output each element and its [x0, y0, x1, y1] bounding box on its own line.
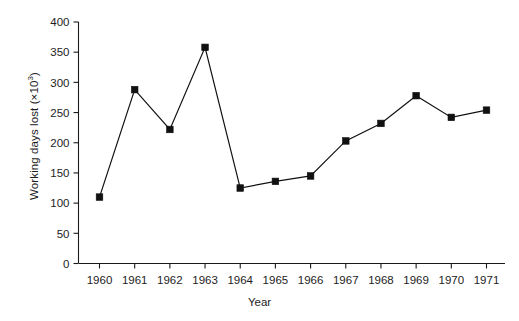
data-point-marker — [96, 194, 103, 201]
data-series-markers — [96, 44, 490, 200]
data-point-marker — [413, 92, 420, 99]
x-axis-title: Year — [0, 296, 519, 308]
x-tick-label: 1964 — [227, 274, 253, 286]
y-tick-label: 300 — [50, 77, 69, 89]
y-tick-label: 350 — [50, 46, 69, 58]
data-point-marker — [272, 178, 279, 185]
x-tick-label: 1970 — [439, 274, 465, 286]
data-point-marker — [342, 138, 349, 145]
y-tick-label: 200 — [50, 137, 69, 149]
x-axis-ticks: 1960196119621963196419651966196719681969… — [87, 264, 500, 286]
y-tick-label: 250 — [50, 107, 69, 119]
x-tick-label: 1960 — [87, 274, 113, 286]
data-point-marker — [448, 114, 455, 121]
x-tick-label: 1961 — [122, 274, 148, 286]
data-series-line — [100, 47, 487, 197]
x-tick-label: 1967 — [333, 274, 359, 286]
x-tick-label: 1963 — [192, 274, 218, 286]
chart-plot-area: 050100150200250300350400 196019611962196… — [0, 0, 519, 321]
x-tick-label: 1962 — [157, 274, 183, 286]
data-point-marker — [307, 173, 314, 180]
data-point-marker — [237, 185, 244, 192]
y-tick-label: 0 — [63, 258, 69, 270]
y-tick-label: 50 — [57, 228, 70, 240]
y-tick-label: 100 — [50, 197, 69, 209]
x-tick-label: 1969 — [403, 274, 429, 286]
data-point-marker — [202, 44, 209, 51]
data-point-marker — [167, 126, 174, 133]
x-tick-label: 1968 — [368, 274, 394, 286]
chart-figure: Working days lost (×103) 050100150200250… — [0, 0, 519, 321]
x-tick-label: 1966 — [298, 274, 324, 286]
y-tick-label: 150 — [50, 167, 69, 179]
y-axis-ticks: 050100150200250300350400 — [50, 16, 78, 270]
x-tick-label: 1965 — [263, 274, 289, 286]
data-point-marker — [378, 120, 385, 127]
data-point-marker — [483, 107, 490, 114]
y-tick-label: 400 — [50, 16, 69, 28]
data-point-marker — [131, 86, 138, 93]
x-tick-label: 1971 — [474, 274, 500, 286]
